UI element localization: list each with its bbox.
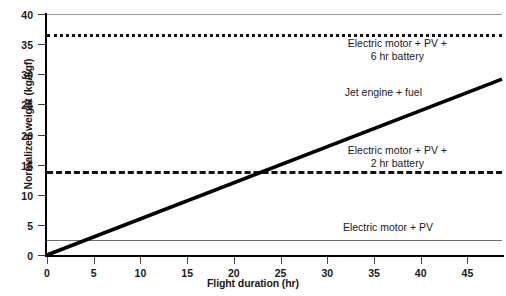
x-tick-label: 5 [91, 267, 97, 279]
x-axis-title: Flight duration (hr) [0, 277, 506, 289]
y-tick-label: 25 [21, 99, 33, 111]
x-tick-label: 45 [462, 267, 474, 279]
series-annotation: Electric motor + PV [343, 221, 433, 234]
y-tick-label: 35 [21, 39, 33, 51]
y-tick-label: 30 [21, 69, 33, 81]
x-tick-label: 10 [135, 267, 147, 279]
series-annotation: Jet engine + fuel [345, 86, 422, 99]
x-tick-label: 25 [275, 267, 287, 279]
x-tick-label: 30 [321, 267, 333, 279]
chart-figure: Normalized weight (kg/kgf) Flight durati… [0, 0, 506, 296]
x-tick-label: 40 [415, 267, 427, 279]
y-axis-line [45, 13, 47, 256]
series-annotation: Electric motor + PV + 6 hr battery [348, 38, 447, 63]
series-line-dotted [47, 34, 502, 37]
x-tick-label: 15 [181, 267, 193, 279]
y-tick-label: 5 [27, 220, 33, 232]
y-tick-label: 10 [21, 190, 33, 202]
x-tick-label: 0 [44, 267, 50, 279]
x-axis-line [45, 255, 504, 257]
y-tick-label: 15 [21, 160, 33, 172]
y-tick-label: 0 [27, 250, 33, 262]
series-line-dashed [47, 171, 502, 174]
plot-frame-top [47, 14, 502, 15]
y-tick-label: 20 [21, 130, 33, 142]
series-annotation: Electric motor + PV + 2 hr battery [348, 145, 447, 170]
series-line-solid-thin [47, 240, 502, 241]
x-tick-label: 20 [228, 267, 240, 279]
y-tick-label: 40 [21, 9, 33, 21]
x-tick-label: 35 [368, 267, 380, 279]
